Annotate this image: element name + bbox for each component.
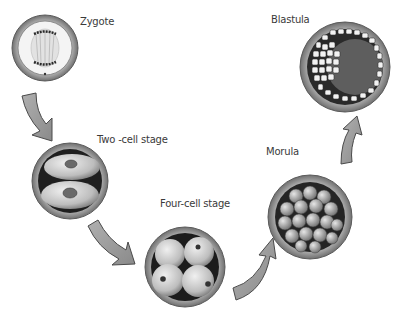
label-morula: Morula xyxy=(266,146,299,157)
label-four-cell-stage: Four-cell stage xyxy=(160,198,230,209)
blastula-illustration xyxy=(300,22,390,112)
morula-illustration xyxy=(268,175,352,259)
zygote-illustration xyxy=(12,15,78,81)
label-two-cell-stage: Two -cell stage xyxy=(97,134,168,145)
label-zygote: Zygote xyxy=(80,16,114,27)
label-blastula: Blastula xyxy=(271,14,310,25)
arrow-zygote-to-two-cell xyxy=(22,93,52,141)
arrow-four-cell-to-morula xyxy=(233,238,276,300)
arrow-two-cell-to-four-cell xyxy=(88,220,135,265)
arrow-morula-to-blastula xyxy=(341,116,362,164)
four-cell-illustration xyxy=(145,227,225,307)
two-cell-illustration xyxy=(32,143,108,219)
diagram-canvas xyxy=(0,0,397,317)
